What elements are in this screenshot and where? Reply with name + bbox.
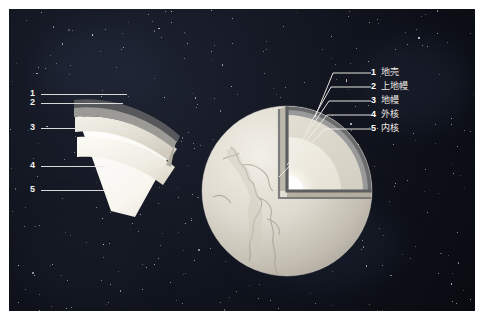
star (170, 282, 171, 283)
star (16, 63, 17, 64)
star (66, 308, 67, 309)
star (176, 300, 177, 301)
star (451, 118, 452, 119)
star (435, 124, 436, 125)
star (297, 12, 298, 13)
star (36, 73, 37, 74)
star (160, 245, 161, 246)
star (148, 14, 149, 15)
star (25, 207, 26, 208)
star (264, 73, 265, 74)
star (460, 175, 461, 176)
star (146, 267, 147, 268)
star (86, 242, 87, 243)
star (348, 16, 349, 17)
star (377, 310, 378, 311)
star (322, 49, 323, 50)
star (105, 29, 106, 30)
star (33, 158, 34, 159)
star (39, 310, 40, 311)
star (229, 297, 230, 298)
star (331, 58, 332, 59)
star (32, 272, 33, 273)
star (154, 30, 155, 31)
star (18, 265, 19, 266)
star (18, 302, 19, 303)
star (349, 11, 350, 12)
wedge-cutaway-diagram (71, 93, 183, 218)
legend-item-1: 1 地壳 (371, 67, 399, 78)
star (389, 201, 390, 202)
star (439, 74, 440, 75)
star (470, 33, 471, 34)
left-leader-line (41, 94, 127, 95)
star (70, 235, 71, 236)
star (68, 29, 70, 31)
star (41, 12, 42, 13)
star (458, 262, 459, 263)
legend-callouts (301, 65, 433, 141)
star (435, 143, 436, 144)
star (15, 189, 16, 190)
left-callout-number: 4 (30, 161, 35, 170)
star (438, 193, 439, 194)
star (278, 308, 279, 309)
star (62, 198, 63, 199)
star (171, 22, 172, 23)
star (276, 94, 277, 95)
star (38, 143, 39, 144)
star (37, 176, 38, 177)
star (427, 212, 428, 213)
star (162, 233, 163, 234)
star (280, 97, 281, 98)
star (470, 299, 471, 300)
star (463, 290, 464, 291)
star (394, 186, 395, 187)
star (224, 309, 225, 310)
star (183, 274, 184, 275)
star (38, 67, 39, 68)
star (470, 131, 471, 132)
star (258, 298, 259, 299)
star (231, 86, 232, 87)
star (194, 260, 195, 261)
star (451, 283, 453, 285)
star (184, 32, 185, 33)
star (382, 310, 383, 311)
star (50, 265, 51, 266)
star (39, 225, 40, 226)
star (214, 98, 215, 99)
star (24, 226, 25, 227)
star (185, 273, 186, 274)
star (220, 302, 221, 303)
star (390, 275, 392, 277)
star (440, 253, 441, 254)
legend-item-5: 5 内核 (371, 123, 399, 134)
star (266, 49, 267, 50)
star (70, 65, 71, 66)
star (263, 51, 264, 52)
left-callout-number: 2 (30, 98, 35, 107)
star (185, 223, 186, 224)
star (130, 229, 131, 230)
legend-label: 内核 (381, 123, 399, 134)
star (425, 14, 426, 15)
star (457, 232, 458, 233)
star (193, 143, 194, 144)
star (232, 43, 233, 44)
star (237, 94, 238, 95)
star (464, 187, 465, 188)
star (197, 197, 198, 198)
left-callout-number: 5 (30, 185, 35, 194)
star (161, 37, 162, 38)
star (249, 285, 250, 286)
star (56, 63, 57, 64)
star (118, 271, 119, 272)
star (187, 43, 189, 45)
star (71, 307, 72, 308)
star (191, 218, 192, 219)
star (451, 124, 452, 125)
star (185, 33, 186, 34)
star (192, 194, 193, 195)
star (122, 33, 123, 34)
